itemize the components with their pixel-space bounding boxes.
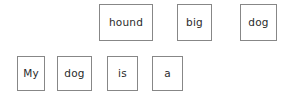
sentence-tile-my[interactable]: My [17,56,45,91]
sentence-tile-label: a [164,68,171,79]
sentence-tile-label: dog [64,68,84,79]
sentence-row: My dog is a [0,0,296,99]
sentence-tile-is[interactable]: is [107,56,138,91]
sentence-tile-a[interactable]: a [152,56,183,91]
word-tile-canvas: hound big dog My dog is a [0,0,296,99]
sentence-tile-label: is [118,68,127,79]
sentence-tile-dog[interactable]: dog [57,56,92,91]
sentence-tile-label: My [23,68,39,79]
